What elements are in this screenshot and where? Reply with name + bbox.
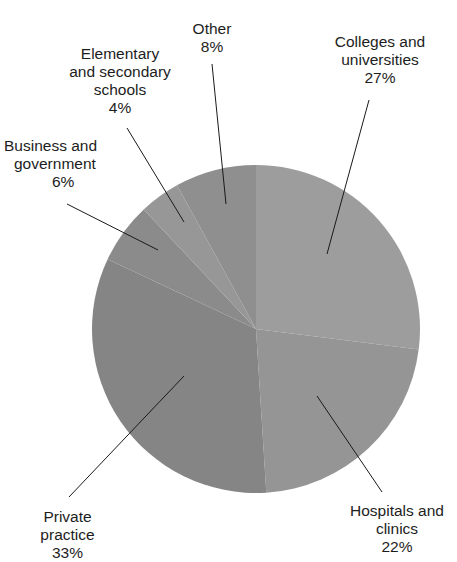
label-business-line1: Business and bbox=[4, 137, 124, 155]
label-other-line1: Other bbox=[181, 20, 243, 38]
label-hospitals-line2: clinics bbox=[337, 520, 457, 538]
label-elementary-line2: and secondary bbox=[55, 63, 185, 81]
label-hospitals-line1: Hospitals and bbox=[337, 502, 457, 520]
label-private: Private practice 33% bbox=[30, 508, 105, 562]
pie-slice-hospitals-and-clinics bbox=[256, 329, 419, 493]
pie-slices bbox=[92, 165, 420, 493]
label-colleges-line1: Colleges and bbox=[320, 33, 440, 51]
label-elementary-line3: schools bbox=[55, 81, 185, 99]
label-other-pct: 8% bbox=[181, 38, 243, 56]
label-private-pct: 33% bbox=[30, 544, 105, 562]
label-elementary-line1: Elementary bbox=[55, 45, 185, 63]
label-hospitals-pct: 22% bbox=[337, 538, 457, 556]
label-colleges-line2: universities bbox=[320, 51, 440, 69]
label-other: Other 8% bbox=[181, 20, 243, 56]
label-private-line1: Private bbox=[30, 508, 105, 526]
label-business: Business and government 6% bbox=[4, 137, 124, 191]
label-colleges-pct: 27% bbox=[320, 69, 440, 87]
label-colleges: Colleges and universities 27% bbox=[320, 33, 440, 87]
label-elementary: Elementary and secondary schools 4% bbox=[55, 45, 185, 117]
label-hospitals: Hospitals and clinics 22% bbox=[337, 502, 457, 556]
label-private-line2: practice bbox=[30, 526, 105, 544]
label-business-line2: government bbox=[4, 155, 124, 173]
label-business-pct: 6% bbox=[4, 173, 124, 191]
pie-slice-colleges-and-universities bbox=[256, 165, 420, 350]
label-elementary-pct: 4% bbox=[55, 99, 185, 117]
